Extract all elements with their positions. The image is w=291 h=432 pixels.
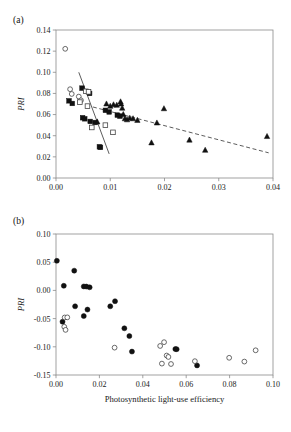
data-point-filled-circle	[81, 314, 86, 319]
data-point-open-circle	[158, 344, 163, 349]
data-point-open-circle	[169, 362, 174, 367]
x-tick-label: 0.10	[266, 380, 280, 389]
data-point-open-circle	[69, 92, 74, 97]
data-point-open-square	[111, 130, 116, 135]
y-tick-label: 0.04	[37, 132, 51, 141]
data-point-open-circle	[63, 327, 68, 332]
data-point-filled-circle	[61, 283, 66, 288]
data-point-open-circle	[112, 345, 117, 350]
data-point-open-square	[78, 100, 83, 105]
data-point-filled-triangle	[264, 133, 269, 138]
data-point-filled-circle	[85, 307, 90, 312]
data-point-open-circle	[192, 359, 197, 364]
x-axis-title: Photosynthetic light-use efficiency	[105, 394, 225, 404]
data-point-filled-triangle	[161, 106, 166, 111]
y-tick-label: -0.10	[34, 343, 51, 352]
fit-line-solid	[79, 72, 109, 154]
data-point-open-circle	[68, 87, 73, 92]
x-tick-label: 0.03	[212, 183, 226, 192]
panel-a-plot: 0.000.010.020.030.040.000.020.040.060.08…	[0, 0, 291, 212]
data-point-open-circle	[63, 46, 68, 51]
data-point-filled-circle	[87, 285, 92, 290]
figure-container: (a) 0.000.010.020.030.040.000.020.040.06…	[0, 0, 291, 432]
x-tick-label: 0.01	[103, 183, 117, 192]
data-point-filled-circle	[54, 258, 59, 263]
data-point-open-circle	[65, 315, 70, 320]
series-open-circle	[62, 315, 258, 366]
data-point-filled-triangle	[149, 140, 154, 145]
series-filled-circle	[54, 258, 199, 368]
data-point-open-square	[103, 123, 108, 128]
data-point-filled-circle	[129, 349, 134, 354]
x-tick-label: 0.04	[136, 380, 150, 389]
y-tick-label: 0.05	[37, 258, 51, 267]
x-tick-label: 0.08	[223, 380, 237, 389]
series-open-circle	[63, 46, 84, 102]
y-tick-label: 0.14	[37, 26, 51, 35]
data-point-filled-circle	[174, 347, 179, 352]
x-tick-label: 0.04	[266, 183, 280, 192]
x-tick-label: 0.02	[92, 380, 106, 389]
data-point-filled-triangle	[187, 137, 192, 142]
data-point-filled-square	[107, 110, 112, 115]
data-point-filled-circle	[72, 268, 77, 273]
axis-ticks: 0.000.010.020.030.040.000.020.040.060.08…	[37, 26, 281, 192]
y-tick-label: 0.00	[37, 286, 51, 295]
data-point-filled-square	[70, 101, 75, 106]
panel-b-plot: 0.000.020.040.060.080.10-0.15-0.10-0.050…	[0, 212, 291, 432]
y-tick-label: 0.10	[37, 230, 51, 239]
data-point-filled-square	[88, 119, 93, 124]
data-point-filled-square	[82, 117, 87, 122]
data-point-open-circle	[162, 340, 167, 345]
data-point-open-square	[90, 125, 95, 130]
data-point-filled-triangle	[104, 101, 109, 106]
axis-ticks: 0.000.020.040.060.080.10-0.15-0.10-0.050…	[34, 230, 280, 389]
series-filled-square	[67, 86, 123, 150]
data-point-filled-triangle	[202, 147, 207, 152]
panel-a: (a) 0.000.010.020.030.040.000.020.040.06…	[0, 0, 291, 212]
y-tick-label: 0.06	[37, 110, 51, 119]
y-tick-label: 0.10	[37, 68, 51, 77]
data-point-open-square	[85, 104, 90, 109]
panel-a-label: (a)	[13, 15, 24, 25]
x-tick-label: 0.02	[158, 183, 172, 192]
data-point-open-circle	[159, 361, 164, 366]
x-tick-label: 0.00	[49, 380, 63, 389]
data-point-filled-circle	[127, 334, 132, 339]
data-point-open-square	[86, 90, 91, 95]
y-tick-label: -0.15	[34, 371, 51, 380]
series-filled-triangle	[95, 99, 270, 153]
data-point-filled-circle	[113, 299, 118, 304]
x-tick-label: 0.06	[179, 380, 193, 389]
data-point-filled-triangle	[154, 120, 159, 125]
y-tick-label: 0.02	[37, 153, 51, 162]
panel-b-label: (b)	[13, 216, 24, 226]
y-tick-label: 0.00	[37, 174, 51, 183]
panel-b: (b) 0.000.020.040.060.080.10-0.15-0.10-0…	[0, 212, 291, 432]
y-tick-label: -0.05	[34, 315, 51, 324]
data-point-filled-square	[98, 145, 103, 150]
data-point-open-circle	[227, 355, 232, 360]
data-point-filled-circle	[73, 304, 78, 309]
data-point-open-circle	[253, 348, 258, 353]
data-point-open-circle	[242, 359, 247, 364]
data-point-filled-circle	[122, 326, 127, 331]
data-point-open-circle	[166, 355, 171, 360]
data-point-filled-circle	[108, 304, 113, 309]
x-tick-label: 0.00	[49, 183, 63, 192]
y-axis-title: PRI	[16, 96, 26, 111]
y-tick-label: 0.12	[37, 47, 51, 56]
y-axis-title: PRI	[16, 297, 26, 312]
y-tick-label: 0.08	[37, 89, 51, 98]
